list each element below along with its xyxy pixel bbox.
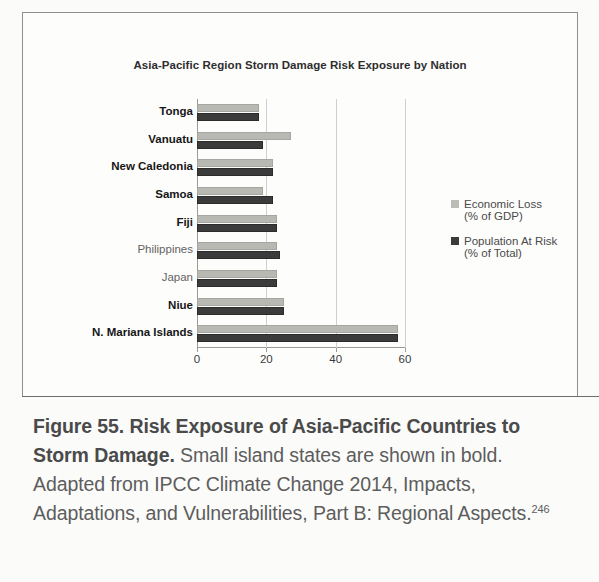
bar-economic-loss bbox=[197, 242, 277, 250]
bar-economic-loss bbox=[197, 298, 284, 306]
category-label: Tonga bbox=[29, 105, 197, 117]
bar-group bbox=[197, 99, 405, 127]
axis-tick-mark bbox=[405, 348, 406, 352]
bar-economic-loss bbox=[197, 270, 277, 278]
figure-caption: Figure 55. Risk Exposure of Asia-Pacific… bbox=[33, 412, 578, 528]
caption-footnote-marker: 246 bbox=[532, 503, 550, 515]
bar-population-at-risk bbox=[197, 224, 277, 232]
gridline bbox=[405, 99, 406, 348]
bar-economic-loss bbox=[197, 159, 273, 167]
category-label: N. Mariana Islands bbox=[29, 326, 197, 338]
bar-group bbox=[197, 237, 405, 265]
bar-group bbox=[197, 293, 405, 321]
bar-population-at-risk bbox=[197, 168, 273, 176]
bar-group bbox=[197, 154, 405, 182]
bar-population-at-risk bbox=[197, 279, 277, 287]
figure-caption-divider bbox=[22, 396, 599, 397]
legend-label: Population At Risk bbox=[464, 235, 557, 247]
category-label: Niue bbox=[29, 299, 197, 311]
legend-entry: Population At Risk(% of Total) bbox=[451, 235, 571, 259]
plot-area: 0204060 bbox=[197, 99, 405, 348]
bar-population-at-risk bbox=[197, 141, 263, 149]
bar-economic-loss bbox=[197, 132, 291, 140]
legend-label: Economic Loss bbox=[464, 198, 542, 210]
bar-group bbox=[197, 320, 405, 348]
axis-tick-label: 60 bbox=[399, 353, 412, 365]
bar-population-at-risk bbox=[197, 251, 280, 259]
chart-title: Asia-Pacific Region Storm Damage Risk Ex… bbox=[23, 59, 577, 71]
bar-group bbox=[197, 182, 405, 210]
category-axis-labels: TongaVanuatuNew CaledoniaSamoaFijiPhilip… bbox=[23, 99, 197, 348]
bar-group bbox=[197, 210, 405, 238]
bar-population-at-risk bbox=[197, 113, 259, 121]
bar-economic-loss bbox=[197, 187, 263, 195]
axis-tick-label: 20 bbox=[260, 353, 273, 365]
category-label: Samoa bbox=[29, 188, 197, 200]
bar-population-at-risk bbox=[197, 307, 284, 315]
axis-tick-mark bbox=[266, 348, 267, 352]
category-label: New Caledonia bbox=[29, 160, 197, 172]
figure-chart-panel: Asia-Pacific Region Storm Damage Risk Ex… bbox=[22, 12, 578, 396]
bar-population-at-risk bbox=[197, 334, 398, 342]
category-label: Fiji bbox=[29, 216, 197, 228]
legend-sublabel: (% of GDP) bbox=[464, 210, 571, 222]
page-background: Asia-Pacific Region Storm Damage Risk Ex… bbox=[0, 0, 599, 582]
bar-economic-loss bbox=[197, 215, 277, 223]
axis-tick-label: 0 bbox=[194, 353, 200, 365]
bar-economic-loss bbox=[197, 104, 259, 112]
axis-tick-label: 40 bbox=[329, 353, 342, 365]
category-label: Philippines bbox=[29, 243, 197, 255]
chart-legend: Economic Loss(% of GDP)Population At Ris… bbox=[451, 198, 571, 272]
bar-group bbox=[197, 265, 405, 293]
legend-sublabel: (% of Total) bbox=[464, 247, 571, 259]
category-label: Vanuatu bbox=[29, 133, 197, 145]
axis-tick-mark bbox=[336, 348, 337, 352]
bar-population-at-risk bbox=[197, 196, 273, 204]
axis-tick-mark bbox=[197, 348, 198, 352]
legend-entry: Economic Loss(% of GDP) bbox=[451, 198, 571, 222]
bar-economic-loss bbox=[197, 325, 398, 333]
category-label: Japan bbox=[29, 271, 197, 283]
bar-group bbox=[197, 127, 405, 155]
legend-swatch-dark-icon bbox=[451, 237, 459, 245]
legend-swatch-light-icon bbox=[451, 200, 459, 208]
